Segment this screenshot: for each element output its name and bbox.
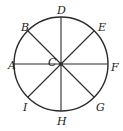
- label-B: B: [20, 21, 29, 34]
- label-E: E: [97, 21, 106, 34]
- label-H: H: [56, 115, 67, 128]
- label-A: A: [7, 59, 16, 72]
- label-D: D: [56, 4, 66, 17]
- circle-diagram: A B D E F G H I C: [0, 0, 123, 131]
- label-F: F: [110, 61, 119, 74]
- label-G: G: [96, 101, 105, 114]
- center-point: [59, 62, 63, 66]
- label-C: C: [48, 56, 57, 69]
- label-I: I: [22, 101, 28, 114]
